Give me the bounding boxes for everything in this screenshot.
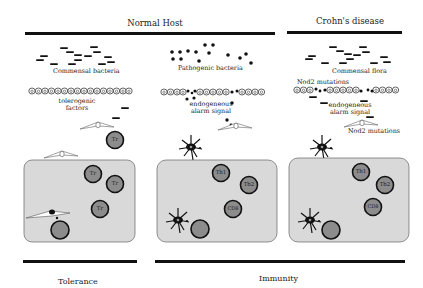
footer-bar-immunity [155, 260, 405, 263]
epithelium-row-1 [29, 88, 132, 94]
macrophage-3 [344, 120, 378, 127]
macrophage-2 [218, 123, 252, 130]
cell-label-th2-2: Th2 [378, 181, 392, 188]
footer-tolerance: Tolerance [58, 277, 98, 286]
cell-label-th2-1: Th2 [242, 181, 256, 188]
label-nod2-mutations-bottom: Nod2 mutations [348, 128, 400, 135]
epithelium-row-2 [161, 89, 265, 95]
macrophage-on-membrane [44, 151, 78, 158]
macrophage-1 [80, 122, 114, 129]
footer-bar-tolerance [23, 260, 137, 263]
epithelium-row-3 [294, 87, 399, 93]
label-alarm-signal-2: alarm signal [325, 109, 375, 116]
diagram-graphics [0, 0, 423, 288]
commensal-bacteria-cluster-1 [36, 46, 115, 65]
cell-label-tr-1: Tr [108, 136, 122, 143]
label-pathogenic-bacteria: Pathogenic bacteria [178, 65, 243, 72]
dendritic-cell-migrating-1 [179, 135, 202, 160]
cell-label-cd8-1: CD8 [226, 205, 240, 212]
lamina-propria-3 [289, 158, 409, 242]
label-factors: factors [52, 105, 102, 112]
commensal-flora-cluster [305, 46, 391, 64]
pathogenic-bacteria-cluster [170, 43, 253, 65]
label-alarm-signal-1: alarm signal [186, 108, 236, 115]
cell-label-cd8-2: CD8 [366, 203, 380, 210]
cell-label-tr-4: Tr [93, 205, 107, 212]
label-commensal-flora: Commensal flora [332, 68, 387, 75]
footer-immunity: Immunity [259, 274, 298, 283]
cell-label-tr-3: Tr [108, 180, 122, 187]
dendritic-cell-migrating-2 [310, 135, 333, 160]
cell-label-th1-1: Th1 [214, 169, 228, 176]
cell-label-tr-2: Tr [86, 170, 100, 177]
label-commensal-bacteria: Commensal bacteria [53, 68, 120, 75]
label-nod2-mutations-top: Nod2 mutations [297, 79, 349, 86]
cell-label-th1-2: Th1 [354, 168, 368, 175]
lamina-propria-1 [24, 160, 135, 242]
